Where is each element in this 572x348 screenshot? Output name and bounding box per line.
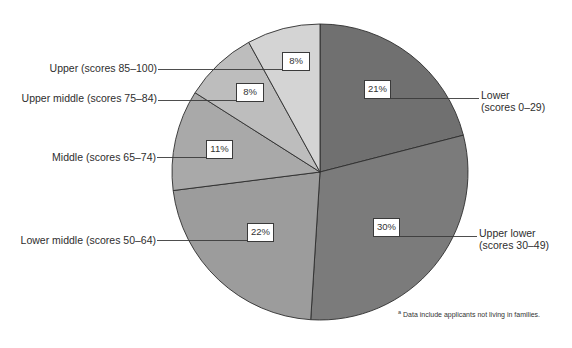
label-lower-middle: Lower middle (scores 50–64) [21,234,156,246]
pct-box-lower-middle: 22% [247,223,274,242]
label-lower-name: Lower [481,89,545,101]
label-upper-middle: Upper middle (scores 75–84) [22,92,157,104]
footnote-marker: a [398,309,401,315]
footnote-text: Data include applicants not living in fa… [403,311,540,318]
pie-slices [172,24,468,320]
pct-box-upper-middle: 8% [236,83,264,102]
footnote: aData include applicants not living in f… [398,309,540,318]
pie-slice-lower-middle [173,172,320,320]
label-upper-lower-name: Upper lower [479,227,549,239]
pct-box-upper-lower: 30% [373,218,400,237]
label-lower-range: (scores 0–29) [481,101,545,113]
label-upper-lower: Upper lower (scores 30–49) [479,227,549,251]
label-upper: Upper (scores 85–100) [50,62,157,74]
label-middle: Middle (scores 65–74) [52,151,156,163]
label-upper-lower-range: (scores 30–49) [479,239,549,251]
label-lower: Lower (scores 0–29) [481,89,545,113]
pct-box-lower: 21% [364,80,391,99]
pct-box-upper: 8% [282,52,310,71]
pct-box-middle: 11% [206,140,233,159]
